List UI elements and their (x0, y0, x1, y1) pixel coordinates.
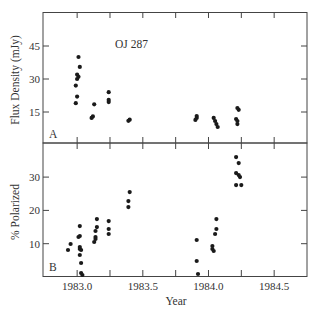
x-axis-title: Year (165, 295, 186, 307)
data-point (80, 273, 84, 277)
data-point (92, 102, 96, 106)
data-point (76, 55, 80, 59)
tick-labels: 1530451020301983.01983.51984.01984.5 (29, 40, 290, 292)
x-tick-label: 1984.5 (259, 280, 290, 292)
panel-a-frame (43, 13, 307, 144)
data-point (90, 116, 94, 120)
panel-b-frame (43, 143, 307, 277)
panel-a-label: A (49, 128, 58, 140)
data-point (126, 199, 130, 203)
data-point (93, 229, 97, 233)
data-point (126, 119, 130, 123)
y-tick-label: 30 (29, 171, 41, 183)
y-tick-label: 10 (29, 238, 41, 250)
data-point (234, 183, 238, 187)
data-point (213, 232, 217, 236)
data-point (237, 161, 241, 165)
data-point (107, 90, 111, 94)
data-point (212, 249, 216, 253)
data-point (79, 261, 83, 265)
data-point (75, 95, 79, 99)
data-point (74, 101, 78, 105)
data-point (69, 242, 73, 246)
data-point (78, 65, 82, 69)
data-point (66, 248, 70, 252)
data-point (128, 190, 132, 194)
data-point (238, 175, 242, 179)
data-point (196, 272, 200, 276)
panel-b-ylabel: % Polarized (9, 184, 21, 240)
data-point (195, 259, 199, 263)
data-point (107, 227, 111, 231)
data-point (195, 238, 199, 242)
data-point (78, 253, 82, 257)
data-point (107, 232, 111, 236)
plot-frame (43, 13, 307, 277)
data-point (235, 122, 239, 126)
data-point (234, 155, 238, 159)
panel-a-ylabel: Flux Density (mJy) (9, 35, 22, 125)
data-point (239, 183, 243, 187)
data-point (126, 205, 130, 209)
data-point (107, 219, 111, 223)
source-name-annotation: OJ 287 (115, 38, 148, 50)
panel-b-data-points (66, 155, 244, 277)
chart-figure: 1530451020301983.01983.51984.01984.5 Flu… (0, 0, 318, 314)
data-point (76, 235, 80, 239)
data-point (214, 217, 218, 221)
panel-b-label: B (49, 261, 57, 273)
y-tick-label: 20 (29, 204, 41, 216)
data-point (107, 100, 111, 104)
data-point (193, 118, 197, 122)
data-point (74, 84, 78, 88)
panel-a-data-points (74, 55, 241, 129)
x-tick-label: 1983.5 (128, 280, 159, 292)
x-tick-label: 1984.0 (193, 280, 224, 292)
data-point (95, 225, 99, 229)
data-point (214, 227, 218, 231)
data-point (216, 125, 220, 129)
data-point (78, 224, 82, 228)
data-point (75, 73, 79, 77)
data-point (237, 108, 241, 112)
data-point (79, 248, 83, 252)
y-tick-label: 15 (29, 106, 41, 118)
data-point (92, 240, 96, 244)
data-point (95, 217, 99, 221)
axis-ticks (43, 13, 307, 277)
y-tick-label: 45 (29, 40, 41, 52)
x-tick-label: 1983.0 (62, 280, 93, 292)
y-tick-label: 30 (29, 73, 41, 85)
